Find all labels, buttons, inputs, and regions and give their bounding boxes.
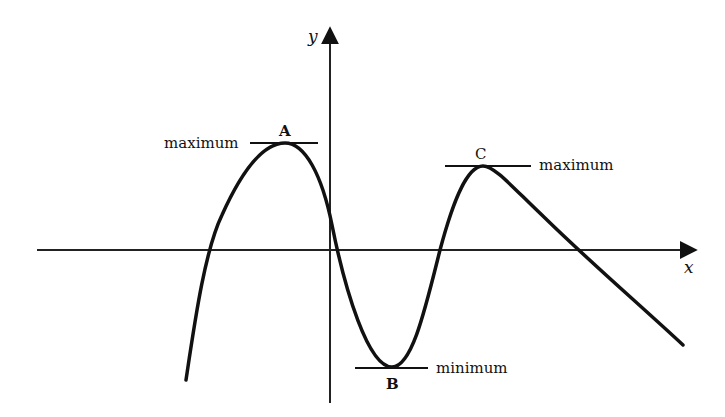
function-curve — [186, 143, 683, 380]
point-c-label: C — [475, 145, 486, 163]
point-b-label: B — [386, 375, 399, 393]
point-c: C maximum — [445, 145, 614, 174]
point-a-kind-label: maximum — [164, 134, 239, 152]
function-graph: x y A maximum B minimum C maximum — [0, 0, 725, 417]
point-b-kind-label: minimum — [436, 359, 508, 377]
y-axis-label: y — [307, 26, 318, 46]
point-c-kind-label: maximum — [539, 156, 614, 174]
point-a-label: A — [278, 122, 291, 140]
x-axis-label: x — [684, 257, 694, 277]
point-b: B minimum — [355, 359, 508, 393]
